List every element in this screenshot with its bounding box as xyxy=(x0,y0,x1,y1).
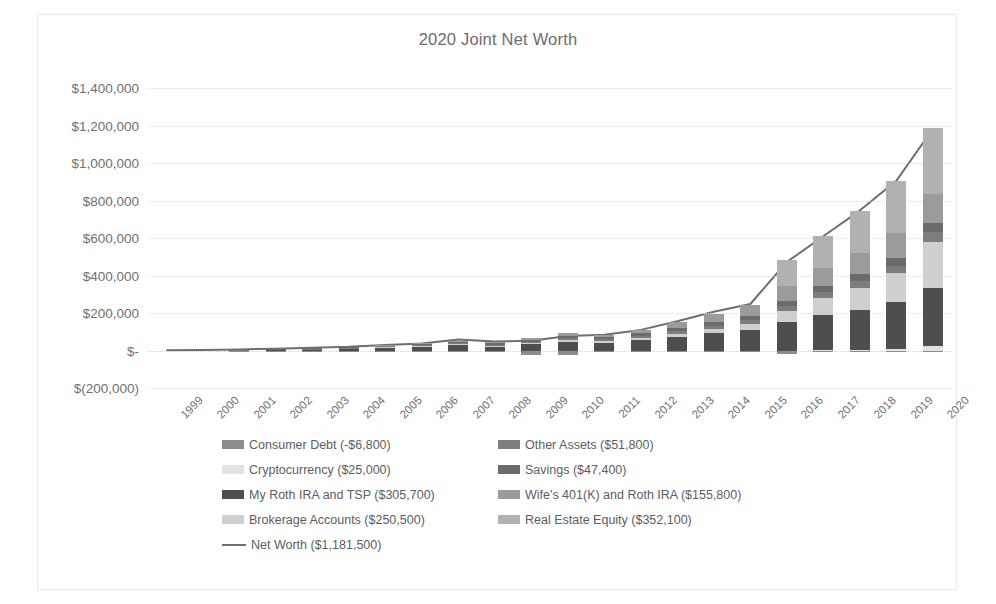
legend-entry[interactable]: Cryptocurrency ($25,000) xyxy=(222,463,498,477)
bar-segment xyxy=(923,194,943,223)
bar-segment xyxy=(266,349,286,350)
bar-stack xyxy=(185,88,222,388)
bar-stack xyxy=(805,88,842,388)
bar-segment xyxy=(302,348,322,349)
bar-segment xyxy=(521,343,541,344)
bar-segment xyxy=(375,345,395,346)
bar-segment xyxy=(850,281,870,288)
bar-segment xyxy=(923,351,943,352)
y-axis-tick-label: $400,000 xyxy=(83,268,139,283)
bar-segment xyxy=(886,273,906,301)
bar-segment xyxy=(777,260,797,286)
bar-stack xyxy=(513,88,550,388)
bar-segment xyxy=(594,335,614,338)
legend-entry[interactable]: Real Estate Equity ($352,100) xyxy=(498,513,774,527)
bar-segment xyxy=(886,302,906,350)
legend-swatch-icon xyxy=(498,515,520,524)
legend-entry[interactable]: Brokerage Accounts ($250,500) xyxy=(222,513,498,527)
bar-segment xyxy=(375,351,395,352)
bar-segment xyxy=(594,343,614,351)
legend-swatch-icon xyxy=(498,440,520,449)
legend-swatch-icon xyxy=(222,515,244,524)
y-axis-tick-label: $1,200,000 xyxy=(71,118,139,133)
bar-segment xyxy=(850,274,870,281)
bar-segment xyxy=(813,292,833,298)
bar-segment xyxy=(594,351,614,353)
y-axis-tick-label: $800,000 xyxy=(83,193,139,208)
bar-segment xyxy=(558,340,578,342)
gridline xyxy=(148,388,951,389)
bar-segment xyxy=(704,322,724,326)
bar-segment xyxy=(558,336,578,339)
bar-segment xyxy=(631,340,651,351)
bar-segment xyxy=(558,338,578,340)
legend-swatch-icon xyxy=(222,490,244,499)
bar-segment xyxy=(777,311,797,322)
bar-segment xyxy=(631,351,651,352)
bar-segment xyxy=(777,286,797,301)
legend-entry[interactable]: Net Worth ($1,181,500) xyxy=(222,538,498,552)
bar-segment xyxy=(521,340,541,342)
bar-stack xyxy=(769,88,806,388)
bar-segment xyxy=(850,350,870,351)
legend-swatch-icon xyxy=(498,465,520,474)
bar-stack xyxy=(659,88,696,388)
bar-segment xyxy=(667,328,687,331)
bar-segment xyxy=(448,343,468,344)
legend-label: My Roth IRA and TSP ($305,700) xyxy=(249,488,435,502)
bar-segment xyxy=(813,286,833,292)
legend-label: Consumer Debt (-$6,800) xyxy=(249,438,391,452)
bar-segment xyxy=(813,298,833,315)
bar-stack xyxy=(294,88,331,388)
bar-segment xyxy=(631,336,651,338)
bar-segment xyxy=(375,346,395,347)
bar-segment xyxy=(813,236,833,268)
legend-label: Wife's 401(K) and Roth IRA ($155,800) xyxy=(525,488,741,502)
bar-segment xyxy=(667,334,687,337)
legend-line-icon xyxy=(222,544,246,546)
bar-segment xyxy=(302,351,322,352)
bar-segment xyxy=(777,301,797,306)
bar-stack xyxy=(915,88,952,388)
chart-title: 2020 Joint Net Worth xyxy=(0,30,996,49)
bar-segment xyxy=(339,347,359,348)
legend-label: Net Worth ($1,181,500) xyxy=(251,538,381,552)
bar-segment xyxy=(813,351,833,353)
legend-entry[interactable]: Consumer Debt (-$6,800) xyxy=(222,438,498,452)
y-axis-tick-label: $200,000 xyxy=(83,306,139,321)
plot-area: $1,400,000$1,200,000$1,000,000$800,000$6… xyxy=(148,88,951,388)
legend-row: Brokerage Accounts ($250,500)Real Estate… xyxy=(222,507,822,532)
bar-segment xyxy=(448,341,468,342)
y-axis-tick-label: $600,000 xyxy=(83,231,139,246)
legend-entry[interactable]: Other Assets ($51,800) xyxy=(498,438,774,452)
bar-segment xyxy=(412,346,432,350)
bar-segment xyxy=(850,211,870,253)
bar-stack xyxy=(732,88,769,388)
bar-stack xyxy=(477,88,514,388)
bar-segment xyxy=(740,305,760,316)
legend-entry[interactable]: Savings ($47,400) xyxy=(498,463,774,477)
bar-segment xyxy=(667,331,687,334)
bar-stack xyxy=(878,88,915,388)
legend-row: Consumer Debt (-$6,800)Other Assets ($51… xyxy=(222,432,822,457)
y-axis-tick-label: $(200,000) xyxy=(74,381,139,396)
bar-segment xyxy=(594,341,614,342)
bar-segment xyxy=(704,333,724,350)
bar-segment xyxy=(813,268,833,286)
bar-segment xyxy=(448,341,468,343)
bar-segment xyxy=(448,351,468,352)
bar-segment xyxy=(594,339,614,341)
bar-segment xyxy=(813,350,833,351)
bar-segment xyxy=(667,337,687,351)
bar-segment xyxy=(412,345,432,346)
bar-segment xyxy=(923,223,943,232)
bar-stack xyxy=(842,88,879,388)
legend-entry[interactable]: Wife's 401(K) and Roth IRA ($155,800) xyxy=(498,488,774,502)
bar-segment xyxy=(923,288,943,345)
bar-segment xyxy=(521,338,541,340)
legend-entry[interactable]: My Roth IRA and TSP ($305,700) xyxy=(222,488,498,502)
legend-label: Brokerage Accounts ($250,500) xyxy=(249,513,425,527)
chart-legend: Consumer Debt (-$6,800)Other Assets ($51… xyxy=(222,432,822,557)
bar-stack xyxy=(404,88,441,388)
bar-stack xyxy=(148,88,185,388)
